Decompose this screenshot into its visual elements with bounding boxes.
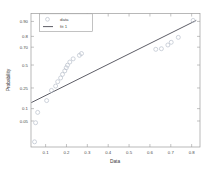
y-tick-label-3: 0.5: [22, 63, 29, 68]
data-point: [45, 99, 49, 103]
x-tick-label-2: 0.3: [84, 150, 91, 155]
legend-label-fit: fit 1: [60, 24, 68, 29]
x-axis-ticks: [46, 144, 192, 147]
y-axis-title: Probability: [6, 68, 11, 91]
y-tick-label-2: 0.70: [20, 45, 29, 50]
chart-canvas: 0.90 0.8 0.70 0.5 0.25 0.1 0.05: [0, 0, 213, 176]
data-point: [159, 47, 163, 51]
data-point: [49, 88, 53, 92]
y-axis-ticks: [31, 21, 34, 121]
x-tick-label-0: 0.1: [43, 150, 50, 155]
x-axis-title: Data: [110, 159, 120, 164]
y-tick-label-0: 0.90: [20, 19, 29, 24]
data-point: [56, 80, 60, 84]
x-tick-label-4: 0.5: [126, 150, 133, 155]
y-tick-label-4: 0.25: [20, 86, 29, 91]
x-tick-label-1: 0.2: [63, 150, 70, 155]
x-tick-label-7: 0.8: [189, 150, 196, 155]
data-point: [34, 121, 38, 125]
data-point: [169, 40, 173, 44]
y-tick-label-5: 0.1: [22, 106, 29, 111]
y-tick-label-6: 0.05: [20, 119, 29, 124]
data-point: [154, 47, 158, 51]
data-point: [71, 57, 75, 61]
x-tick-label-3: 0.4: [105, 150, 112, 155]
data-point: [68, 60, 72, 64]
y-tick-label-1: 0.8: [22, 34, 29, 39]
x-tick-label-6: 0.7: [168, 150, 175, 155]
fit-line-series: [31, 20, 196, 102]
data-point: [33, 140, 37, 144]
legend-label-data: data: [60, 17, 69, 22]
fit-line: [31, 20, 196, 102]
y-axis-ticks-right: [197, 21, 200, 121]
data-point: [36, 110, 40, 114]
x-tick-label-5: 0.6: [147, 150, 154, 155]
chart-legend: data fit 1: [40, 14, 93, 32]
data-point-series: [33, 18, 196, 143]
data-point: [176, 35, 180, 39]
probability-plot-figure: 0.90 0.8 0.70 0.5 0.25 0.1 0.05: [0, 0, 213, 176]
data-point: [54, 84, 58, 88]
